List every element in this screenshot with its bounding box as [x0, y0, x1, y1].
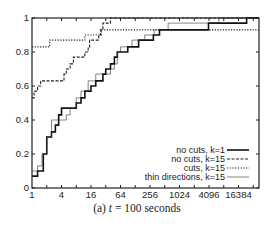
x-tick-label: 4	[59, 189, 64, 200]
y-tick-label: 0.4	[16, 114, 29, 125]
legend: no cuts, k=1no cuts, k=15cuts, k=15thin …	[145, 145, 249, 182]
x-tick-label: 4096	[198, 189, 219, 200]
x-tick-label: 16	[86, 189, 97, 200]
x-tick-label: 1	[29, 189, 34, 200]
y-tick-label: 0.8	[16, 46, 29, 57]
chart-caption: (a) t = 100 seconds	[93, 202, 181, 215]
y-tick-label: 0.6	[16, 80, 29, 91]
x-tick-label: 16384	[225, 189, 251, 200]
legend-label: thin directions, k=15	[145, 172, 225, 182]
x-tick-label: 256	[142, 189, 158, 200]
y-tick-label: 0	[24, 182, 29, 193]
x-tick-label: 1024	[169, 189, 190, 200]
x-tick-label: 64	[115, 189, 126, 200]
series-line	[32, 30, 259, 47]
y-tick-label: 1	[24, 12, 29, 23]
cdf-step-chart: 00.20.40.60.81 1416642561024409616384 no…	[0, 0, 274, 226]
y-tick-label: 0.2	[16, 148, 29, 159]
